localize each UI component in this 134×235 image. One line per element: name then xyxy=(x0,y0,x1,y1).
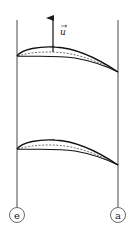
svg-text:a: a xyxy=(115,210,121,221)
upper-blade-camber-line xyxy=(18,52,110,68)
boundary-label-a: a xyxy=(111,208,126,223)
upper-blade-pressure-side xyxy=(17,56,118,72)
lower-blade-camber-line xyxy=(18,145,110,161)
svg-text:e: e xyxy=(14,210,20,221)
upper-blade-suction-side xyxy=(17,47,118,72)
blade-cascade-diagram: u e a xyxy=(0,0,134,235)
boundary-label-e: e xyxy=(10,208,25,223)
lower-blade-pressure-side xyxy=(17,149,118,165)
lower-blade-suction-side xyxy=(17,140,118,165)
svg-text:u: u xyxy=(60,27,66,37)
velocity-label: u xyxy=(60,25,67,37)
upper-blade xyxy=(17,47,118,72)
lower-blade xyxy=(17,140,118,165)
